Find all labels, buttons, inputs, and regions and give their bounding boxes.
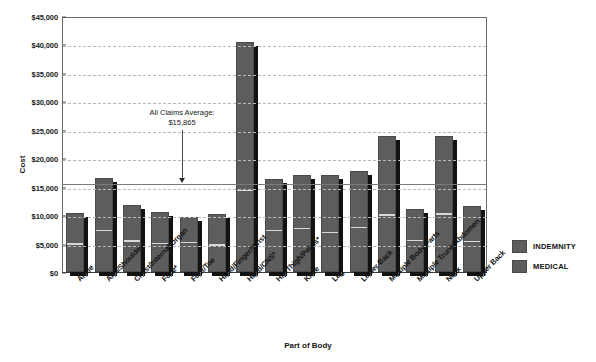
bars-container: 10,35816,56411,75910,5479,58810,24340,39… bbox=[63, 18, 486, 272]
bar-segment-divider bbox=[294, 228, 310, 230]
y-axis-tick-label: $30,000 bbox=[32, 98, 58, 107]
bar-chart: Cost $45,000$40,000$35,000$30,000$25,000… bbox=[0, 0, 596, 362]
bar-segment-divider bbox=[237, 190, 253, 192]
average-reference-line bbox=[63, 184, 486, 185]
bar-segment-divider bbox=[96, 230, 112, 232]
y-axis-tick-mark bbox=[62, 159, 66, 160]
bar-group[interactable]: 17,738 bbox=[350, 16, 372, 272]
bar-segment-divider bbox=[351, 227, 367, 229]
x-axis-title: Part of Body bbox=[0, 341, 596, 350]
bar[interactable]: 16,564 bbox=[95, 178, 113, 272]
y-axis-tick-mark bbox=[62, 73, 66, 74]
bar[interactable]: 40,392 bbox=[236, 42, 254, 272]
bar-segment-divider bbox=[67, 243, 83, 245]
y-axis-tick-label: $0 bbox=[50, 269, 58, 278]
y-axis-tick-label: $10,000 bbox=[32, 212, 58, 221]
bar-segment-divider bbox=[379, 214, 395, 216]
average-annotation: All Claims Average:$15,865 bbox=[122, 108, 242, 128]
y-axis-ticks: $45,000$40,000$35,000$30,000$25,000$20,0… bbox=[0, 0, 58, 362]
bar-segment-divider bbox=[266, 230, 282, 232]
y-axis-tick-label: $45,000 bbox=[32, 13, 58, 22]
legend-swatch-indemnity bbox=[512, 240, 527, 253]
y-axis-tick-label: $40,000 bbox=[32, 41, 58, 50]
y-axis-tick-mark bbox=[62, 17, 66, 18]
y-axis-tick-label: $35,000 bbox=[32, 69, 58, 78]
plot-area: 10,35816,56411,75910,5479,58810,24340,39… bbox=[62, 17, 487, 273]
bar[interactable]: 10,358 bbox=[66, 213, 84, 272]
y-axis-tick-mark bbox=[62, 45, 66, 46]
legend-label-medical: MEDICAL bbox=[533, 262, 569, 271]
gridline bbox=[63, 217, 486, 218]
legend-label-indemnity: INDEMNITY bbox=[533, 242, 576, 251]
gridline bbox=[63, 46, 486, 47]
y-axis-tick-mark bbox=[62, 187, 66, 188]
average-annotation-line2: $15,865 bbox=[122, 118, 242, 128]
average-annotation-arrow-head bbox=[179, 178, 185, 183]
y-axis-tick-label: $15,000 bbox=[32, 183, 58, 192]
bar-group[interactable]: 16,966 bbox=[293, 16, 315, 272]
gridline bbox=[63, 103, 486, 104]
bar-group[interactable]: 10,358 bbox=[66, 16, 88, 272]
gridline bbox=[63, 189, 486, 190]
gridline bbox=[63, 132, 486, 133]
bar[interactable]: 17,738 bbox=[350, 171, 368, 272]
bar-group[interactable]: 17,034 bbox=[321, 16, 343, 272]
legend: INDEMNITY MEDICAL bbox=[512, 240, 576, 280]
gridline bbox=[63, 160, 486, 161]
y-axis-tick-mark bbox=[62, 273, 66, 274]
bar-segment-divider bbox=[181, 242, 197, 244]
y-axis-tick-mark bbox=[62, 216, 66, 217]
bar-segment-divider bbox=[464, 241, 480, 243]
bar-segment-divider bbox=[407, 240, 423, 242]
legend-item-indemnity: INDEMNITY bbox=[512, 240, 576, 253]
y-axis-tick-label: $25,000 bbox=[32, 126, 58, 135]
average-annotation-line1: All Claims Average: bbox=[122, 108, 242, 118]
y-axis-tick-mark bbox=[62, 244, 66, 245]
gridline bbox=[63, 75, 486, 76]
bar-group[interactable]: 11,005 bbox=[406, 16, 428, 272]
bar-segment-divider bbox=[436, 213, 452, 215]
bar-segment-divider bbox=[124, 240, 140, 242]
bar-group[interactable]: 40,392 bbox=[236, 16, 258, 272]
bar-group[interactable]: 16,279 bbox=[265, 16, 287, 272]
y-axis-tick-label: $20,000 bbox=[32, 155, 58, 164]
bar-group[interactable]: 10,243 bbox=[208, 16, 230, 272]
average-annotation-arrow-shaft bbox=[182, 130, 183, 178]
y-axis-tick-mark bbox=[62, 102, 66, 103]
legend-swatch-medical bbox=[512, 260, 527, 273]
bar-segment-divider bbox=[322, 232, 338, 234]
bar-group[interactable]: 11,759 bbox=[123, 16, 145, 272]
y-axis-tick-mark bbox=[62, 130, 66, 131]
bar-group[interactable]: 23,903 bbox=[378, 16, 400, 272]
bar-group[interactable]: 10,547 bbox=[151, 16, 173, 272]
legend-item-medical: MEDICAL bbox=[512, 260, 576, 273]
y-axis-tick-label: $5,000 bbox=[36, 240, 58, 249]
bar-group[interactable]: 16,564 bbox=[95, 16, 117, 272]
